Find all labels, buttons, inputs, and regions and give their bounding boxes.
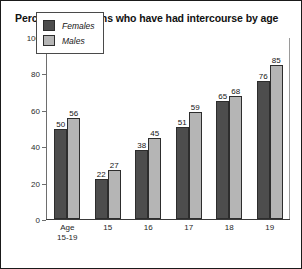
bar-groups: 505622273845515965687685 bbox=[47, 38, 290, 219]
bar-males-3: 59 bbox=[189, 112, 202, 219]
category-label-line: 17 bbox=[184, 223, 193, 232]
category-label-line: 19 bbox=[265, 223, 274, 232]
bar-value-label: 27 bbox=[110, 161, 119, 170]
plot-area: 020406080100 505622273845515965687685 bbox=[46, 38, 290, 220]
y-axis-tick-label: 60 bbox=[31, 106, 40, 115]
bar-males-2: 45 bbox=[148, 138, 161, 219]
bar-group: 3845 bbox=[128, 38, 169, 219]
category-label-line: Age bbox=[60, 223, 74, 232]
bar-value-label: 85 bbox=[272, 56, 281, 65]
bar-group: 2227 bbox=[88, 38, 129, 219]
category-label-line: 16 bbox=[144, 223, 153, 232]
y-axis-tick-mark bbox=[42, 111, 46, 112]
chart-figure: Percentage of teens who have had interco… bbox=[0, 0, 302, 269]
y-axis-tick-label: 20 bbox=[31, 179, 40, 188]
bar-females-5: 76 bbox=[257, 81, 270, 219]
bar-males-5: 85 bbox=[270, 65, 283, 219]
chart-legend: FemalesMales bbox=[36, 12, 104, 54]
bar-group: 5056 bbox=[47, 38, 88, 219]
legend-swatch-icon bbox=[43, 20, 55, 31]
bar-males-4: 68 bbox=[229, 96, 242, 219]
bar-group: 6568 bbox=[209, 38, 250, 219]
bar-value-label: 38 bbox=[137, 141, 146, 150]
legend-item-females: Females bbox=[43, 18, 95, 33]
bar-females-2: 38 bbox=[135, 150, 148, 219]
y-axis-tick-label: 40 bbox=[31, 143, 40, 152]
bar-value-label: 65 bbox=[218, 92, 227, 101]
category-label-line: 18 bbox=[225, 223, 234, 232]
bar-value-label: 76 bbox=[259, 72, 268, 81]
legend-label: Females bbox=[62, 21, 95, 31]
x-axis-line bbox=[46, 219, 290, 220]
bar-group: 7685 bbox=[250, 38, 291, 219]
legend-swatch-icon bbox=[43, 35, 55, 46]
bar-females-0: 50 bbox=[54, 129, 67, 220]
bar-value-label: 50 bbox=[56, 120, 65, 129]
category-label-line: 15 bbox=[103, 223, 112, 232]
y-axis-tick-mark bbox=[42, 147, 46, 148]
legend-item-males: Males bbox=[43, 33, 95, 48]
bar-value-label: 59 bbox=[191, 103, 200, 112]
x-axis-category-label-3: 17 bbox=[169, 223, 210, 243]
bar-value-label: 56 bbox=[69, 109, 78, 118]
x-axis-category-label-1: 15 bbox=[88, 223, 129, 243]
bar-group: 5159 bbox=[169, 38, 210, 219]
bar-value-label: 51 bbox=[178, 118, 187, 127]
y-axis-tick-label: 80 bbox=[31, 70, 40, 79]
legend-label: Males bbox=[62, 36, 85, 46]
x-axis-category-label-0: Age15-19 bbox=[47, 223, 88, 243]
y-axis-tick-mark bbox=[42, 220, 46, 221]
x-axis-category-label-2: 16 bbox=[128, 223, 169, 243]
bar-females-1: 22 bbox=[95, 179, 108, 219]
bar-males-1: 27 bbox=[108, 170, 121, 219]
bar-value-label: 45 bbox=[150, 129, 159, 138]
y-axis-tick-mark bbox=[42, 74, 46, 75]
bar-males-0: 56 bbox=[67, 118, 80, 219]
bar-females-4: 65 bbox=[216, 101, 229, 219]
y-axis-tick-label: 0 bbox=[36, 216, 40, 225]
bar-value-label: 68 bbox=[231, 87, 240, 96]
x-axis-category-label-5: 19 bbox=[250, 223, 291, 243]
bar-value-label: 22 bbox=[97, 170, 106, 179]
x-axis-category-label-4: 18 bbox=[209, 223, 250, 243]
y-axis-tick-mark bbox=[42, 184, 46, 185]
category-label-line: 15-19 bbox=[47, 233, 88, 243]
x-axis-category-labels: Age15-191516171819 bbox=[47, 223, 290, 243]
bar-females-3: 51 bbox=[176, 127, 189, 219]
